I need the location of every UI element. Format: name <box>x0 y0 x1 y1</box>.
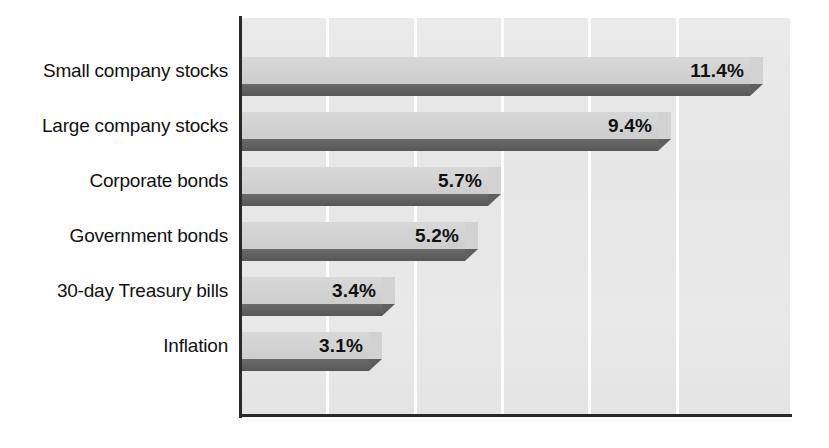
bar-shadow <box>239 139 658 151</box>
bar-shadow <box>239 84 750 96</box>
bar-face-bevel <box>465 222 478 249</box>
bar-face-bevel <box>750 57 763 84</box>
bar-value-label: 3.1% <box>239 332 369 359</box>
category-label-government-bonds: Government bonds <box>70 226 228 245</box>
bar-value-label: 5.7% <box>239 167 488 194</box>
y-axis-line <box>239 16 242 418</box>
bar-chart: Small company stocks Large company stock… <box>0 0 829 448</box>
bar-shadow <box>239 194 488 206</box>
bar-value-label: 9.4% <box>239 112 658 139</box>
category-label-30-day-treasury-bills: 30-day Treasury bills <box>57 281 228 300</box>
plot-area: 11.4% 9.4% 5.7% 5.2% <box>239 18 790 416</box>
category-label-small-company-stocks: Small company stocks <box>43 61 228 80</box>
bar-value-label: 5.2% <box>239 222 465 249</box>
category-label-corporate-bonds: Corporate bonds <box>89 171 228 190</box>
bar-face-bevel <box>369 332 382 359</box>
bar-face-bevel <box>382 277 395 304</box>
bar-shadow <box>239 304 382 316</box>
x-axis-line <box>239 414 792 417</box>
category-label-large-company-stocks: Large company stocks <box>42 116 228 135</box>
bar-face-bevel <box>488 167 501 194</box>
category-label-column: Small company stocks Large company stock… <box>0 0 232 448</box>
bar-value-label: 3.4% <box>239 277 382 304</box>
bar-value-label: 11.4% <box>239 57 750 84</box>
bar-shadow <box>239 249 465 261</box>
category-label-inflation: Inflation <box>163 336 228 355</box>
bar-face-bevel <box>658 112 671 139</box>
bar-shadow <box>239 359 369 371</box>
